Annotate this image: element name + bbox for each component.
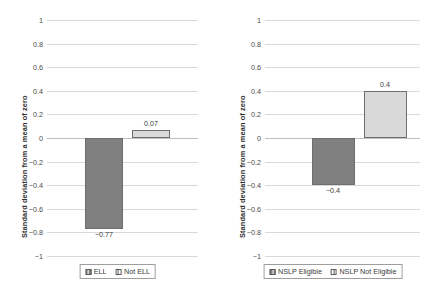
gridline: −0.8 [265,232,420,233]
legend-item-nslp-eligible: NSLP Eligible [270,267,322,276]
gridline: 0.6 [265,67,420,68]
legend-item-ell: ELL [85,267,106,276]
bar-ell [85,138,123,229]
y-axis-tick-label: −0.2 [247,157,261,166]
legend-item-not-ell: Not ELL [116,267,150,276]
y-axis-tick-label: 0.8 [33,39,43,48]
y-axis-title: Standard deviation from a mean of zero [20,95,29,238]
bar-value-label: −0.4 [326,186,340,195]
gridline: −0.6 [265,209,420,210]
y-axis-tick-label: −1 [35,252,43,261]
y-axis-tick-label: 1 [257,16,261,25]
gridline: 0.2 [47,114,198,115]
y-axis-tick-label: −0.2 [29,157,43,166]
plot-area-nslp: 10.80.60.40.20−0.2−0.4−0.6−0.8−1−0.40.4 [265,20,420,256]
bar-value-label: −0.77 [95,230,113,239]
y-axis-tick-label: 0.2 [33,110,43,119]
y-axis-tick-label: −0.4 [247,181,261,190]
legend-label-nslp-eligible: NSLP Eligible [278,267,322,276]
legend-label-nslp-not-eligible: NSLP Not Eligible [339,267,396,276]
y-axis-tick-label: −0.6 [29,204,43,213]
gridline: 0.8 [265,44,420,45]
y-axis-tick-label: −1 [253,252,261,261]
legend-label-ell: ELL [94,267,107,276]
legend-swatch-icon-ell [85,269,91,275]
gridline: 1 [265,20,420,21]
legend-item-nslp-not-eligible: NSLP Not Eligible [331,267,397,276]
y-axis-tick-label: 0 [257,134,261,143]
legend-swatch-icon-nslp-not-eligible [331,269,337,275]
gridline: 1 [47,20,198,21]
legend-swatch-icon-not-ell [116,269,122,275]
gridline: −0.4 [265,185,420,186]
y-axis-tick-label: 0.4 [33,86,43,95]
bar-nslp-eligible [312,138,355,185]
y-axis-tick-label: 1 [39,16,43,25]
bar-not-ell [132,130,170,138]
y-axis-tick-label: −0.8 [247,228,261,237]
legend-label-not-ell: Not ELL [124,267,150,276]
plot-area-ell: 10.80.60.40.20−0.2−0.4−0.6−0.8−1−0.770.0… [47,20,198,256]
bar-nslp-not-eligible [364,91,407,138]
y-axis-tick-label: −0.6 [247,204,261,213]
legend-ell: ELL Not ELL [79,264,156,279]
y-axis-tick-label: −0.4 [29,181,43,190]
gridline: −1 [47,256,198,257]
y-axis-tick-label: 0 [39,134,43,143]
chart-panel-ell: Standard deviation from a mean of zero 1… [0,0,222,296]
bar-value-label: 0.07 [144,119,158,128]
y-axis-tick-label: 0.4 [251,86,261,95]
y-axis-tick-label: −0.8 [29,228,43,237]
legend-nslp: NSLP Eligible NSLP Not Eligible [264,264,403,279]
gridline: 0.8 [47,44,198,45]
bar-value-label: 0.4 [380,80,390,89]
gridline: −1 [265,256,420,257]
gridline: −0.8 [47,232,198,233]
chart-panel-nslp: Standard deviation from a mean of zero 1… [222,0,444,296]
y-axis-tick-label: 0.6 [33,63,43,72]
y-axis-tick-label: 0.2 [251,110,261,119]
two-panel-bar-chart-figure: Standard deviation from a mean of zero 1… [0,0,444,296]
legend-swatch-icon-nslp-eligible [270,269,276,275]
y-axis-title: Standard deviation from a mean of zero [238,95,247,238]
gridline: 0.6 [47,67,198,68]
y-axis-tick-label: 0.6 [251,63,261,72]
gridline: 0.4 [47,91,198,92]
y-axis-tick-label: 0.8 [251,39,261,48]
